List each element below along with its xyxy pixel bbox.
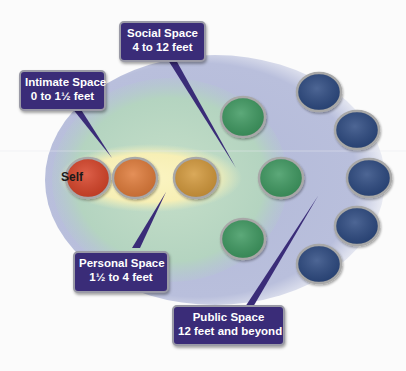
proxemics-diagram: Self Intimate Space 0 to 1½ feet Social … — [0, 0, 406, 371]
social-space-range: 4 to 12 feet — [125, 40, 200, 54]
self-label: Self — [52, 170, 92, 184]
intimate-space-label: Intimate Space 0 to 1½ feet — [19, 70, 106, 111]
personal-space-title: Personal Space — [79, 256, 163, 270]
personal-space-range: 1½ to 4 feet — [79, 270, 163, 284]
public-space-range: 12 feet and beyond — [178, 324, 279, 338]
public-space-title: Public Space — [178, 310, 279, 324]
public-space-label: Public Space 12 feet and beyond — [172, 305, 285, 346]
social-space-label: Social Space 4 to 12 feet — [119, 21, 206, 62]
intimate-space-range: 0 to 1½ feet — [25, 89, 100, 103]
personal-space-label: Personal Space 1½ to 4 feet — [73, 251, 169, 293]
social-space-title: Social Space — [125, 26, 200, 40]
intimate-space-title: Intimate Space — [25, 75, 100, 89]
